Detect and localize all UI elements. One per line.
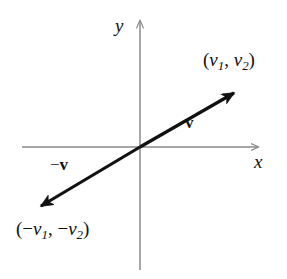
variable-v-first: v (209, 49, 217, 70)
paren-close: ) (83, 218, 89, 239)
comma-separator: , (224, 49, 234, 70)
variable-v-second: v (68, 218, 76, 239)
variable-v-second: v (234, 49, 242, 70)
point-label-v1-v2: (v1, v2) (203, 50, 255, 73)
minus-sign-second: − (57, 218, 68, 239)
x-axis-label: x (254, 152, 262, 171)
vector-diagram-figure: y x (v1, v2) (−v1, −v2) v −v (0, 0, 287, 279)
minus-sign-first: − (22, 218, 33, 239)
comma-separator: , (48, 218, 58, 239)
vector-symbol-v: v (60, 155, 69, 174)
point-label-neg-v1-neg-v2: (−v1, −v2) (16, 219, 89, 242)
y-axis-label: y (115, 16, 123, 35)
vector-label-negative-v: −v (50, 156, 68, 173)
paren-close: ) (249, 49, 255, 70)
minus-sign: − (50, 155, 60, 174)
vector-symbol-v: v (185, 113, 194, 132)
vector-label-v: v (185, 114, 194, 131)
